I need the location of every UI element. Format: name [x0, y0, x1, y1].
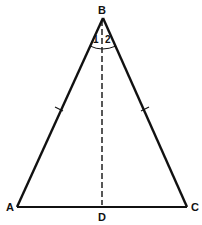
vertex-label-c: C [191, 201, 199, 213]
angle-arc-b [90, 46, 116, 49]
vertex-label-b: B [98, 4, 106, 16]
vertex-label-d: D [98, 211, 106, 223]
angle-label-1: 1 [93, 34, 99, 45]
triangle-diagram: 1 2 B A C D [0, 0, 202, 225]
angle-label-2: 2 [105, 34, 111, 45]
vertex-label-a: A [6, 201, 14, 213]
